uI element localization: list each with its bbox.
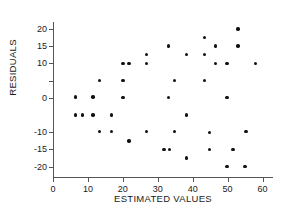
data-point (231, 148, 234, 151)
data-point (214, 62, 217, 65)
x-axis-title: ESTIMATED VALUES (53, 193, 273, 204)
data-point (203, 53, 206, 56)
x-axis-line (53, 177, 273, 178)
data-point (91, 95, 94, 98)
data-point (168, 148, 171, 151)
data-point (173, 130, 176, 133)
x-tick (123, 177, 124, 182)
x-tick (53, 177, 54, 182)
data-point (185, 113, 188, 116)
y-tick-label: 20 (37, 24, 47, 33)
data-point (167, 44, 170, 47)
y-tick (49, 81, 54, 82)
data-point (167, 96, 170, 99)
data-point (145, 62, 148, 65)
y-tick-label: -20 (34, 162, 47, 171)
y-tick-label: -15 (34, 145, 47, 154)
y-tick (49, 149, 54, 150)
data-point (185, 53, 188, 56)
y-tick (49, 46, 54, 47)
data-point (121, 79, 124, 82)
data-point (173, 79, 176, 82)
data-point (127, 62, 130, 65)
x-tick (263, 177, 264, 182)
data-point (236, 27, 239, 30)
scatter-plot-figure: 2015100-10-15-20 0102030405060 ESTIMATED… (0, 0, 298, 210)
x-tick (88, 177, 89, 182)
data-point (81, 113, 84, 116)
data-point (225, 165, 228, 168)
data-point (121, 62, 124, 65)
data-point (208, 148, 211, 151)
x-tick (228, 177, 229, 182)
data-point (74, 95, 77, 98)
data-point (98, 130, 101, 133)
data-point (98, 79, 101, 82)
plot-area: 2015100-10-15-20 0102030405060 (53, 22, 273, 177)
data-point (145, 130, 148, 133)
data-point (185, 156, 188, 159)
x-tick (158, 177, 159, 182)
y-axis-title: RESIDUALS (7, 28, 18, 108)
data-point (74, 113, 77, 116)
data-point (121, 96, 124, 99)
data-point (91, 113, 94, 116)
data-point (203, 36, 206, 39)
data-point (145, 53, 148, 56)
y-tick-label: -10 (34, 128, 47, 137)
y-tick (49, 29, 54, 30)
data-point (225, 96, 228, 99)
data-point (236, 44, 239, 47)
y-tick (49, 98, 54, 99)
y-tick (49, 63, 54, 64)
data-point (127, 139, 130, 142)
data-point (208, 131, 211, 134)
data-point (110, 113, 113, 116)
x-tick (193, 177, 194, 182)
data-point (254, 62, 257, 65)
data-point (214, 44, 217, 47)
y-tick-label: 10 (37, 59, 47, 68)
y-tick-label: 15 (37, 42, 47, 51)
data-point (203, 79, 206, 82)
data-point (162, 148, 165, 151)
data-point (225, 62, 228, 65)
y-tick (49, 132, 54, 133)
data-point (110, 130, 113, 133)
data-point (243, 165, 246, 168)
y-tick-label: 0 (42, 93, 47, 102)
y-tick (49, 167, 54, 168)
data-point (244, 130, 247, 133)
